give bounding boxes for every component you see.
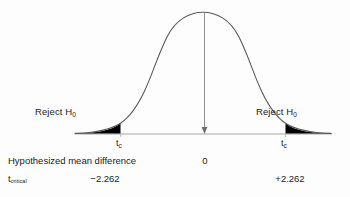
center-arrow-head-icon xyxy=(202,127,208,134)
t-distribution-figure: Reject H0 Reject H0 tc tc Hypothesized m… xyxy=(0,0,350,197)
hypothesized-mean-difference-value: 0 xyxy=(199,156,211,166)
critical-value-symbol-right-subscript: c xyxy=(284,142,287,149)
reject-null-label-left-subscript: 0 xyxy=(72,111,76,118)
reject-null-label-left: Reject H0 xyxy=(35,107,76,118)
t-critical-row-label: tcritical xyxy=(8,174,27,185)
reject-null-label-right: Reject H0 xyxy=(256,107,297,118)
right-rejection-region-fill xyxy=(286,123,332,133)
t-critical-row-label-subscript: critical xyxy=(11,178,27,184)
distribution-curve-svg xyxy=(0,0,350,197)
t-critical-value-left: −2.262 xyxy=(84,174,126,184)
reject-null-label-right-text: Reject H xyxy=(256,106,293,117)
hypothesized-mean-difference-label: Hypothesized mean difference xyxy=(8,156,136,166)
left-rejection-region-fill xyxy=(75,123,121,133)
reject-null-label-left-text: Reject H xyxy=(35,106,72,117)
critical-value-symbol-right: tc xyxy=(281,139,287,149)
critical-value-symbol-left: tc xyxy=(116,139,122,149)
critical-value-symbol-left-subscript: c xyxy=(119,142,122,149)
reject-null-label-right-subscript: 0 xyxy=(293,111,297,118)
t-critical-value-right: +2.262 xyxy=(269,174,311,184)
